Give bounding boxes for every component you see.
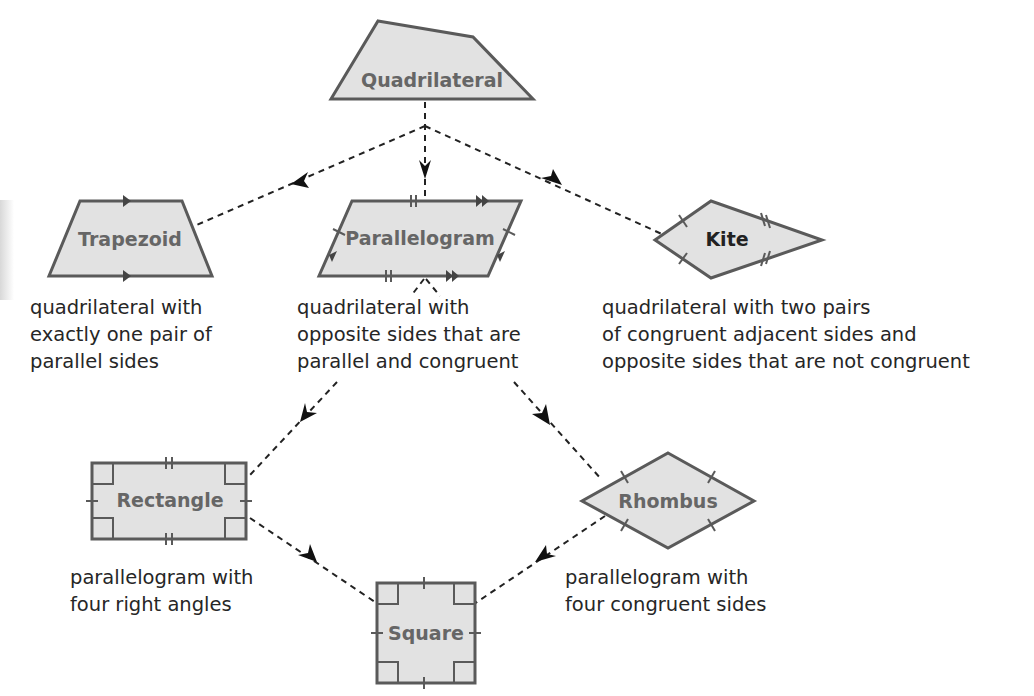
node-label: Quadrilateral [361, 69, 503, 91]
node-parallelogram: Parallelogram [319, 195, 521, 282]
node-rectangle: Rectangle [86, 457, 252, 545]
arrowhead-icon [532, 404, 550, 425]
rectangle-description: parallelogram with four right angles [70, 566, 260, 616]
description-line: opposite sides that are [297, 323, 521, 346]
description-line: parallelogram with [565, 566, 748, 589]
description-line: quadrilateral with [297, 296, 469, 319]
arrowhead-icon [291, 172, 309, 188]
description-line: of congruent adjacent sides and [602, 323, 917, 346]
trapezoid-description: quadrilateral with exactly one pair of p… [30, 296, 218, 373]
description-line: four right angles [70, 593, 232, 616]
quadrilateral-hierarchy-diagram: Quadrilateral Trapezoid quadrilateral wi… [0, 0, 1034, 696]
edge-connector [426, 279, 440, 296]
description-line: quadrilateral with two pairs [602, 296, 870, 319]
edge-connector [411, 279, 424, 296]
kite-description: quadrilateral with two pairs of congruen… [602, 296, 970, 373]
node-label: Parallelogram [345, 227, 495, 249]
node-label: Rhombus [618, 490, 717, 512]
rhombus-description: parallelogram with four congruent sides [565, 566, 766, 616]
node-label: Square [388, 622, 464, 644]
node-label: Trapezoid [78, 228, 182, 250]
edge-parallelogram-rectangle [250, 382, 337, 475]
edge-parallelogram-rhombus [514, 382, 602, 480]
node-trapezoid: Trapezoid [49, 195, 212, 282]
description-line: exactly one pair of [30, 323, 213, 346]
arrowhead-icon [300, 403, 317, 422]
arrowhead-icon [541, 169, 562, 185]
arrowhead-icon [535, 545, 556, 562]
description-line: opposite sides that are not congruent [602, 350, 970, 373]
node-label: Rectangle [116, 489, 223, 511]
description-line: four congruent sides [565, 593, 766, 616]
edge-rectangle-square [250, 518, 378, 604]
arrowhead-icon [298, 544, 317, 562]
node-kite: Kite [655, 201, 822, 278]
node-quadrilateral: Quadrilateral [331, 21, 533, 99]
node-label: Kite [705, 228, 748, 250]
description-line: parallelogram with [70, 566, 253, 589]
description-line: parallel and congruent [297, 350, 519, 373]
description-line: parallel sides [30, 350, 159, 373]
description-line: quadrilateral with [30, 296, 202, 319]
node-rhombus: Rhombus [582, 453, 754, 548]
node-square: Square [371, 577, 481, 689]
parallelogram-description: quadrilateral with opposite sides that a… [297, 296, 527, 373]
